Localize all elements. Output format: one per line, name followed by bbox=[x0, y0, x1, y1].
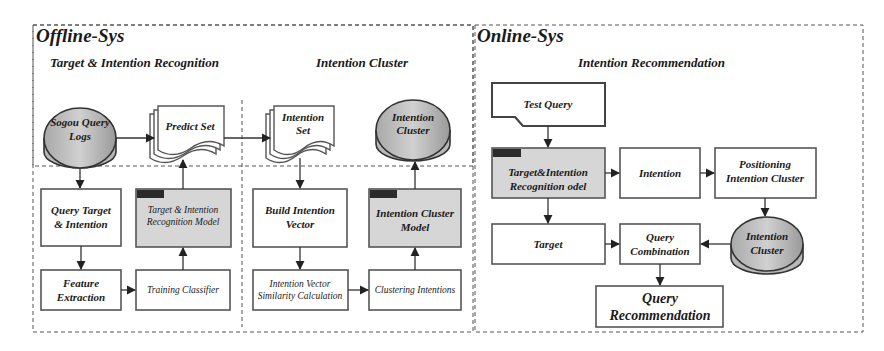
svg-text:Intention: Intention bbox=[281, 111, 324, 123]
svg-text:Recognition odel: Recognition odel bbox=[509, 180, 588, 192]
online-intention-node: Intention bbox=[620, 148, 700, 198]
model-tab-icon bbox=[137, 190, 164, 198]
svg-text:Test Query: Test Query bbox=[524, 98, 573, 110]
svg-text:Similarity Calculation: Similarity Calculation bbox=[258, 291, 343, 301]
svg-text:Intention: Intention bbox=[391, 111, 434, 123]
svg-text:Combination: Combination bbox=[630, 245, 689, 257]
intention-cluster-db-node: Intention Cluster bbox=[376, 100, 450, 161]
online-panel-title: Online-Sys bbox=[477, 25, 564, 46]
predict-set-node: Predict Set bbox=[150, 106, 224, 163]
svg-text:Intention: Intention bbox=[745, 230, 788, 242]
svg-text:Query: Query bbox=[642, 291, 679, 306]
sogou-query-logs-node: Sogou Query Logs bbox=[44, 108, 116, 168]
svg-text:Predict Set: Predict Set bbox=[165, 120, 215, 132]
svg-text:Extraction: Extraction bbox=[56, 291, 105, 303]
svg-text:Positioning: Positioning bbox=[739, 158, 791, 170]
svg-text:Clustering Intentions: Clustering Intentions bbox=[375, 285, 456, 295]
feature-extraction-node: Feature Extraction bbox=[41, 270, 121, 310]
clustering-intentions-node: Clustering Intentions bbox=[369, 270, 461, 310]
svg-text:Cluster: Cluster bbox=[750, 244, 784, 256]
svg-text:Intention Vector: Intention Vector bbox=[269, 279, 331, 289]
section-title-recommendation: Intention Recommendation bbox=[577, 55, 725, 70]
model-tab-icon bbox=[493, 149, 521, 157]
intention-cluster-model-node: Intention Cluster Model bbox=[369, 189, 461, 247]
svg-text:Build Intention: Build Intention bbox=[264, 204, 335, 216]
query-target-intention-node: Query Target & Intention bbox=[41, 189, 121, 246]
similarity-calculation-node: Intention Vector Similarity Calculation bbox=[253, 270, 348, 310]
svg-text:Cluster: Cluster bbox=[396, 124, 430, 136]
svg-text:& Intention: & Intention bbox=[54, 218, 108, 230]
svg-text:Sogou Query: Sogou Query bbox=[50, 116, 110, 128]
svg-text:Query: Query bbox=[646, 231, 674, 243]
svg-text:Feature: Feature bbox=[62, 277, 99, 289]
offline-edges bbox=[80, 138, 415, 290]
svg-text:Logs: Logs bbox=[68, 130, 91, 142]
online-intention-cluster-db-node: Intention Cluster bbox=[731, 217, 803, 274]
online-recognition-model-node: Target&Intention Recognition odel bbox=[492, 148, 605, 198]
svg-text:Target: Target bbox=[534, 238, 564, 250]
svg-text:Recognition Model: Recognition Model bbox=[146, 217, 220, 227]
model-tab-icon bbox=[370, 190, 397, 198]
svg-text:Recommendation: Recommendation bbox=[608, 308, 710, 323]
svg-text:Query Target: Query Target bbox=[51, 204, 112, 216]
architecture-diagram: Offline-Sys Target & Intention Recogniti… bbox=[0, 0, 884, 351]
section-title-recognition: Target & Intention Recognition bbox=[50, 55, 219, 70]
query-combination-node: Query Combination bbox=[620, 224, 700, 264]
intention-set-node: Intention Set bbox=[266, 106, 334, 163]
query-recommendation-node: Query Recommendation bbox=[596, 286, 723, 327]
offline-panel-title: Offline-Sys bbox=[36, 25, 124, 46]
svg-text:Target&Intention: Target&Intention bbox=[508, 166, 588, 178]
svg-text:Set: Set bbox=[296, 124, 311, 136]
svg-text:Vector: Vector bbox=[286, 218, 315, 230]
recognition-model-node: Target & Intention Recognition Model bbox=[136, 189, 231, 247]
svg-text:Training Classifier: Training Classifier bbox=[147, 285, 219, 295]
training-classifier-node: Training Classifier bbox=[136, 270, 230, 310]
svg-text:Target & Intention: Target & Intention bbox=[148, 205, 219, 215]
svg-text:Intention Cluster: Intention Cluster bbox=[725, 172, 805, 184]
build-intention-vector-node: Build Intention Vector bbox=[253, 189, 347, 247]
online-target-node: Target bbox=[492, 224, 605, 264]
section-title-intention-cluster: Intention Cluster bbox=[315, 55, 409, 70]
positioning-intention-cluster-node: Positioning Intention Cluster bbox=[715, 148, 816, 198]
svg-text:Intention: Intention bbox=[638, 167, 681, 179]
test-query-node: Test Query bbox=[492, 83, 605, 126]
svg-text:Intention Cluster: Intention Cluster bbox=[375, 207, 455, 219]
svg-text:Model: Model bbox=[400, 221, 431, 233]
